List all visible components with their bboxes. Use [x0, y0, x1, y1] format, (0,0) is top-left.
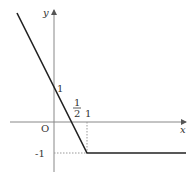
x-half-numerator: 1 — [74, 97, 80, 108]
function-graph: y x O 1 -1 1 2 1 — [0, 0, 191, 175]
y-axis-label: y — [42, 7, 49, 18]
x-tick-one-label: 1 — [85, 108, 91, 119]
origin-label: O — [41, 123, 49, 134]
x-axis-label: x — [180, 124, 186, 135]
y-tick-neg-one-label: -1 — [35, 148, 45, 159]
y-tick-one-label: 1 — [57, 83, 63, 94]
x-half-denominator: 2 — [74, 108, 80, 119]
